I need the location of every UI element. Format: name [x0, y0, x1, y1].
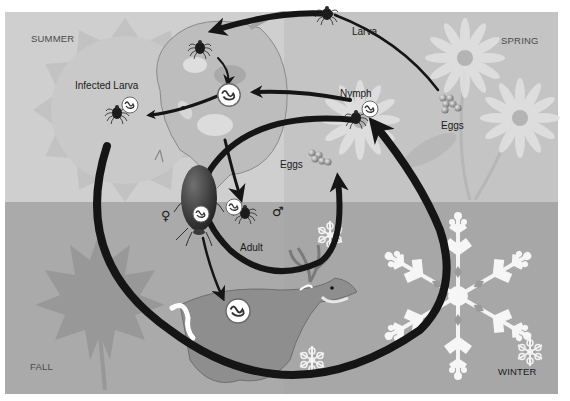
pathogen-marker-female [193, 206, 209, 222]
stage-label-eggs-spring: Eggs [441, 121, 464, 131]
season-label-winter: WINTER [498, 367, 537, 377]
male-symbol: ♂ [272, 205, 284, 218]
pathogen-marker-infected-larva [122, 97, 138, 113]
season-label-spring: SPRING [501, 36, 539, 46]
stage-label-nymph: Nymph [340, 89, 372, 99]
season-label-fall: FALL [30, 362, 53, 372]
pathogen-marker-deer [226, 299, 250, 323]
tick-lifecycle-diagram: SUMMER SPRING FALL WINTER Larva Infected… [0, 0, 570, 401]
stage-label-adult: Adult [240, 243, 263, 253]
pathogen-marker-nymph [362, 101, 378, 117]
pathogen-marker-male [226, 199, 242, 215]
season-label-summer: SUMMER [31, 34, 74, 44]
stage-label-eggs-center: Eggs [280, 160, 303, 170]
diagram-canvas [0, 0, 570, 401]
stage-label-infected-larva: Infected Larva [75, 81, 138, 91]
pathogen-marker-mouse [218, 84, 240, 106]
stage-label-larva: Larva [352, 27, 377, 37]
female-symbol: ♀ [161, 209, 171, 222]
